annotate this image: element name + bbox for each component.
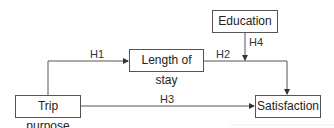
node-satisfaction: Satisfaction: [255, 95, 321, 118]
label-h4: H4: [249, 36, 263, 48]
node-length-of-stay: Length of stay: [129, 49, 204, 72]
label-h1: H1: [90, 48, 104, 60]
edge-h1: [48, 61, 128, 95]
node-education: Education: [212, 10, 278, 33]
label-h2: H2: [216, 48, 230, 60]
edge-h2: [203, 61, 287, 94]
node-trip-purpose: Trip purpose: [15, 95, 81, 118]
label-h3: H3: [160, 93, 174, 105]
